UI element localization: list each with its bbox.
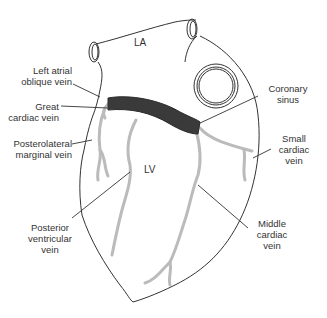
- label-posterior-ventricular-vein: Posterior ventricular vein: [22, 222, 78, 255]
- heart-diagram: LA LV Left atrial oblique vein Great car…: [0, 0, 327, 318]
- leader-posterolateral: [72, 140, 92, 144]
- ivc-opening: [194, 64, 238, 108]
- leader-great-cardiac: [61, 106, 108, 108]
- coronary-sinus-shape: [108, 97, 200, 134]
- leader-middle-cardiac: [198, 185, 248, 228]
- label-lv: LV: [144, 164, 156, 175]
- label-small-cardiac-vein: Small cardiac vein: [272, 133, 316, 166]
- label-coronary-sinus: Coronary sinus: [260, 83, 316, 105]
- label-great-cardiac-vein: Great cardiac vein: [0, 101, 59, 123]
- label-posterolateral-marginal-vein: Posterolateral marginal vein: [0, 138, 72, 160]
- leader-small-cardiac: [253, 149, 271, 158]
- label-la: LA: [134, 37, 146, 48]
- leader-left-atrial-oblique: [73, 84, 100, 97]
- heart-outline: [80, 19, 259, 302]
- label-left-atrial-oblique-vein: Left atrial oblique vein: [10, 65, 72, 87]
- label-middle-cardiac-vein: Middle cardiac vein: [250, 218, 294, 251]
- cardiac-veins: [98, 104, 252, 285]
